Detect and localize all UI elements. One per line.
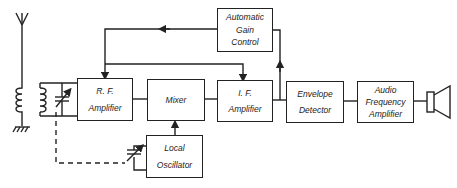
antenna-icon (16, 13, 28, 84)
block-label: Amplifier (369, 110, 402, 119)
variable-capacitor-icon (127, 146, 146, 170)
audio-amplifier-block: Audio Frequency Amplifier (357, 81, 414, 123)
speaker-icon (427, 86, 450, 118)
block-label: Audio (375, 86, 397, 95)
block-label: Local (164, 144, 184, 153)
block-label: Amplifier (228, 105, 261, 114)
block-label: Amplifier (88, 104, 121, 113)
block-label: Gain (236, 26, 254, 35)
block-label: Frequency (365, 98, 405, 107)
if-amplifier-block: I. F. Amplifier (217, 80, 273, 122)
block-label: I. F. (238, 89, 252, 98)
agc-block: Automatic Gain Control (217, 8, 273, 52)
block-label: Oscillator (157, 161, 192, 170)
mixer-block: Mixer (147, 79, 205, 121)
block-label: R. F. (96, 87, 113, 96)
rf-amplifier-block: R. F. Amplifier (77, 78, 133, 121)
ground-icon (13, 127, 30, 132)
block-label: Mixer (166, 96, 187, 105)
block-label: Automatic (226, 13, 264, 22)
variable-capacitor-icon (55, 83, 69, 116)
transformer-icon (16, 83, 77, 126)
receiver-diagram: R. F. Amplifier Mixer I. F. Amplifier Au… (0, 0, 457, 188)
block-label: Detector (299, 106, 331, 115)
local-oscillator-block: Local Oscillator (146, 135, 203, 178)
block-label: Envelope (297, 90, 332, 99)
envelope-detector-block: Envelope Detector (286, 81, 344, 123)
block-label: Control (231, 38, 258, 47)
